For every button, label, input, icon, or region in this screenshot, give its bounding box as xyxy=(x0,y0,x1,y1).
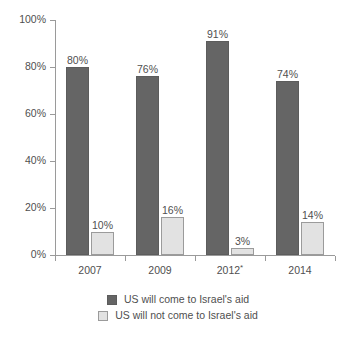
x-axis-tick-mark xyxy=(55,256,56,261)
bar[interactable]: 14% xyxy=(301,222,324,255)
y-axis-tick-mark xyxy=(50,161,55,162)
bar[interactable]: 3% xyxy=(231,248,254,255)
bar-chart: 0%20%40%60%80%100% 80%10%76%16%91%3%74%1… xyxy=(0,0,356,342)
y-axis-tick-label: 60% xyxy=(25,107,46,120)
y-axis-tick-label: 0% xyxy=(31,248,46,261)
chart-legend: US will come to Israel's aidUS will not … xyxy=(0,293,356,322)
bar-value-label: 80% xyxy=(67,54,88,66)
y-axis-tick-mark xyxy=(50,208,55,209)
bar-value-label: 74% xyxy=(277,68,298,80)
y-axis-tick-mark xyxy=(50,67,55,68)
legend-swatch-icon xyxy=(98,311,108,321)
bar[interactable]: 80% xyxy=(66,67,89,255)
legend-item[interactable]: US will not come to Israel's aid xyxy=(98,309,258,322)
bar-value-label: 10% xyxy=(92,219,113,231)
legend-item-label: US will come to Israel's aid xyxy=(124,293,249,306)
legend-item-label: US will not come to Israel's aid xyxy=(115,309,258,322)
y-axis-tick-mark xyxy=(50,114,55,115)
bar-value-label: 76% xyxy=(137,63,158,75)
bar[interactable]: 16% xyxy=(161,217,184,255)
x-axis-tick-mark xyxy=(125,256,126,261)
y-axis-tick-mark xyxy=(50,20,55,21)
bar-value-label: 3% xyxy=(235,235,250,247)
x-axis-tick-mark xyxy=(335,256,336,261)
bar[interactable]: 76% xyxy=(136,76,159,255)
y-axis-tick-label: 40% xyxy=(25,154,46,167)
x-axis-category-label: 2009 xyxy=(125,264,195,277)
bar-group: 76%16% xyxy=(136,20,184,255)
y-axis-line xyxy=(55,20,56,256)
bar-value-label: 16% xyxy=(162,204,183,216)
y-axis-tick-label: 80% xyxy=(25,60,46,73)
legend-item[interactable]: US will come to Israel's aid xyxy=(107,293,249,306)
bar-value-label: 91% xyxy=(207,28,228,40)
x-axis-category-label: 2007 xyxy=(55,264,125,277)
x-axis-tick-mark xyxy=(195,256,196,261)
y-axis-tick-label: 100% xyxy=(19,13,46,26)
plot-area: 0%20%40%60%80%100% 80%10%76%16%91%3%74%1… xyxy=(55,20,335,255)
bar-group: 80%10% xyxy=(66,20,114,255)
bar[interactable]: 10% xyxy=(91,232,114,256)
x-axis-category-label: 2014 xyxy=(265,264,335,277)
legend-swatch-icon xyxy=(107,295,117,305)
bar[interactable]: 91% xyxy=(206,41,229,255)
x-axis-tick-mark xyxy=(265,256,266,261)
bar[interactable]: 74% xyxy=(276,81,299,255)
x-axis-category-label: 2012* xyxy=(195,264,265,277)
bar-group: 74%14% xyxy=(276,20,324,255)
bar-value-label: 14% xyxy=(302,209,323,221)
y-axis-tick-label: 20% xyxy=(25,201,46,214)
bar-group: 91%3% xyxy=(206,20,254,255)
